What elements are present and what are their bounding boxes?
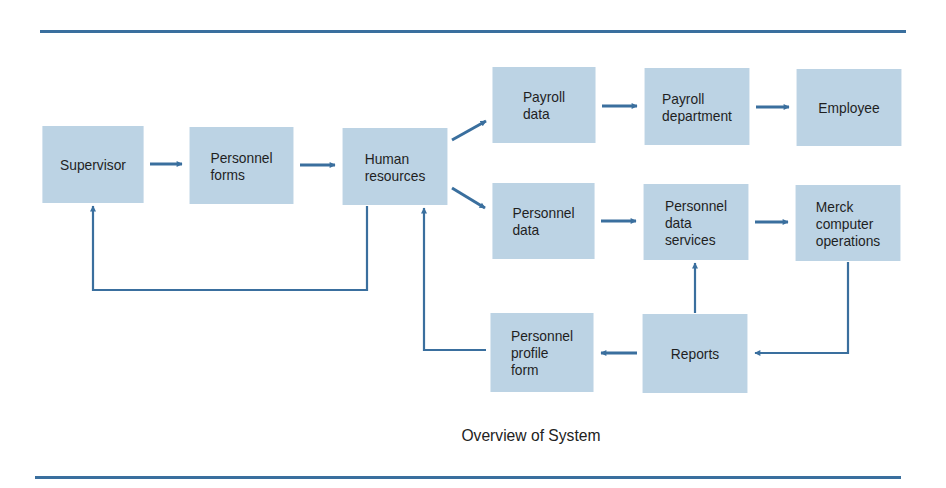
node-label: Human resources [365,150,426,184]
node-supervisor: Supervisor [42,126,143,203]
node-human-resources: Human resources [343,128,448,205]
node-label: Personnel forms [210,149,272,183]
arrow-profile-to-hr [424,208,486,350]
arrow-merck-to-reports [755,262,848,353]
node-merck-computer-operations: Merck computer operations [796,185,901,261]
node-label: Merck computer operations [816,198,880,249]
arrow-hr-to-personnel-data [452,188,485,208]
node-personnel-data-services: Personnel data services [644,184,749,260]
node-label: Supervisor [60,156,126,173]
node-personnel-data: Personnel data [492,183,594,259]
node-payroll-data: Payroll data [492,67,595,143]
diagram-caption: Overview of System [38,426,908,446]
node-label: Reports [671,345,719,362]
node-label: Employee [818,99,879,116]
arrow-hr-to-supervisor [93,206,367,290]
node-label: Personnel data services [665,197,727,248]
node-label: Personnel data [512,204,574,238]
node-label: Payroll department [662,90,732,124]
arrow-hr-to-payroll-data [452,121,486,140]
node-label: Personnel profile form [511,327,573,378]
node-reports: Reports [643,314,748,393]
node-employee: Employee [797,69,902,146]
node-payroll-department: Payroll department [645,68,750,145]
bottom-rule [35,476,901,479]
node-personnel-profile-form: Personnel profile form [490,313,593,392]
node-label: Payroll data [523,88,565,122]
node-personnel-forms: Personnel forms [190,127,294,204]
